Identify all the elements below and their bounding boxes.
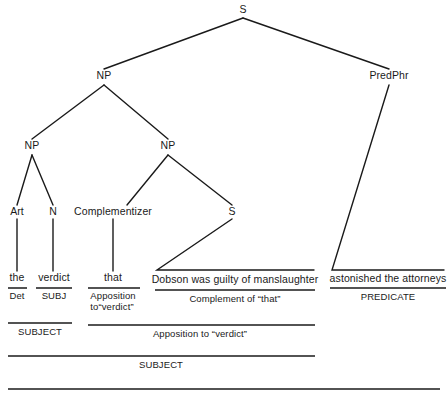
function-apposition-line2: to“verdict” [90,301,133,312]
function-complement-of-that: Complement of “that” [189,294,280,304]
node-inner-np-left: NP [25,140,40,151]
function-apposition-line1: Apposition [90,290,135,301]
edge-left-np-to-n [32,155,53,205]
terminal-that: that [104,272,122,283]
terminal-dobson-clause: Dobson was guilty of manslaughter [152,274,319,285]
node-art: Art [10,206,24,217]
node-subject-np: NP [97,70,112,81]
function-apposition-to-verdict-small: Apposition to“verdict” [90,291,135,312]
function-subject-level3: SUBJECT [139,360,183,370]
edge-root-to-subject-np [104,18,243,69]
edge-right-np-to-embedded-s [168,155,232,205]
node-complementizer: Complementizer [74,206,152,217]
tree-lines-svg [0,0,447,400]
function-predicate: PREDICATE [361,292,416,302]
syntax-tree-diagram: S NP PredPhr NP NP Art N Complementizer … [0,0,447,400]
edge-np-to-right-np [104,85,168,139]
node-n: N [49,206,57,217]
edge-root-to-predphr [243,18,389,69]
function-subj: SUBJ [42,291,67,301]
edge-right-np-to-complementizer [127,155,168,205]
terminal-verdict: verdict [38,272,70,283]
triangle-embedded-s [157,219,314,270]
function-det: Det [9,291,24,301]
edge-np-to-left-np [32,85,104,139]
function-apposition-to-verdict-level2: Apposition to “verdict” [153,329,247,339]
node-inner-np-right: NP [161,140,176,151]
node-embedded-s: S [228,206,235,217]
node-predphr: PredPhr [369,70,408,81]
function-subject-level2: SUBJECT [18,327,62,337]
node-root-s: S [239,4,246,15]
edge-left-np-to-art [17,155,32,205]
terminal-the: the [10,272,25,283]
terminal-predicate-phrase: astonished the attorneys [330,273,447,284]
triangle-predphr [332,85,444,270]
